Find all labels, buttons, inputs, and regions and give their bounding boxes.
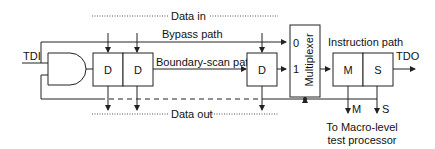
svg-text:D: D (134, 64, 142, 76)
data-out-bus: Data out (92, 108, 278, 120)
svg-text:D: D (258, 64, 266, 76)
mux-input-0: 0 (293, 37, 299, 49)
m-output-label: M (352, 103, 361, 115)
tdi-label: TDI (23, 50, 41, 62)
and-gate (48, 53, 86, 85)
data-in-label: Data in (171, 10, 206, 22)
s-output-label: S (382, 103, 389, 115)
data-out-label: Data out (171, 108, 213, 120)
tdo-label: TDO (396, 50, 420, 62)
bypass-path-label: Bypass path (162, 28, 223, 40)
boundary-scan-diagram: Data in Bypass path TDI D D Boundary-sca… (0, 0, 435, 149)
svg-text:M: M (343, 64, 352, 76)
macro-label-line2: test processor (327, 134, 396, 146)
boundary-scan-path-label: Boundary-scan path (156, 56, 254, 68)
instruction-path-label: Instruction path (328, 36, 403, 48)
mux-input-1: 1 (293, 63, 299, 75)
svg-text:S: S (374, 64, 381, 76)
svg-text:D: D (104, 64, 112, 76)
data-in-bus: Data in (92, 10, 278, 22)
multiplexer-label: Multiplexer (303, 33, 315, 87)
macro-label-line1: To Macro-level (326, 121, 398, 133)
